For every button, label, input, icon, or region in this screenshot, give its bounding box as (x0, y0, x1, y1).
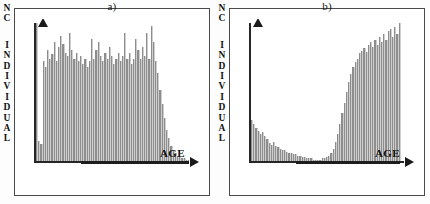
y-label-char: L (4, 134, 10, 144)
y-label-char: D (4, 103, 11, 113)
y-label-char: L (219, 134, 225, 144)
panel-b-histogram-bars (251, 23, 404, 161)
panel-a-x-axis-emphasis (81, 161, 189, 164)
panel-b-plot-area: AGE (240, 19, 416, 177)
panel-b-title: b) (230, 0, 424, 12)
x-axis-arrow-icon (405, 157, 414, 167)
y-axis-label-panel-a: NCINDIVIDUAL (0, 4, 14, 145)
panel-a-plot-area: AGE (25, 19, 201, 177)
y-label-char: C (219, 14, 226, 24)
histogram-bar (399, 23, 401, 161)
x-axis-arrow-icon (190, 157, 199, 167)
panel-b-x-axis-label: AGE (375, 147, 400, 159)
y-label-char: D (219, 103, 226, 113)
panel-b: b) AGE (229, 8, 425, 196)
y-axis-label-panel-b: NCINDIVIDUAL (215, 4, 229, 145)
y-label-char: N (4, 51, 11, 61)
panel-a-histogram-bars (36, 23, 189, 161)
panel-a: a) AGE (14, 8, 210, 196)
panel-a-title: a) (15, 0, 209, 12)
y-label-char: N (219, 51, 226, 61)
figure-container: NCINDIVIDUAL a) AGE NCINDIVIDUAL b) AGE (0, 0, 430, 204)
panel-a-x-axis-label: AGE (160, 147, 185, 159)
panel-b-x-axis-emphasis (296, 161, 399, 164)
y-label-char: C (4, 14, 11, 24)
